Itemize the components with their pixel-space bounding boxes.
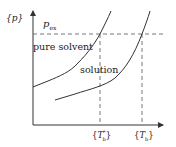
solution-label: solution: [80, 65, 118, 75]
y-axis-label: {p}: [6, 14, 23, 23]
tb-star-sub: b: [103, 136, 106, 142]
pressure-subscript: ex: [49, 24, 56, 31]
solution-text: solution: [80, 64, 118, 75]
pure-solvent-text: pure solvent: [33, 41, 93, 52]
solution-curve: [55, 11, 150, 100]
pure-solvent-label: pure solvent: [33, 42, 93, 52]
y-axis-label-text: {p}: [6, 13, 23, 23]
tb-star-tick-label: {T*b}: [92, 130, 111, 142]
tb-tick-label: {Tb}: [134, 131, 154, 142]
external-pressure-label: pex: [43, 19, 56, 31]
tb-sub: b: [145, 136, 148, 142]
tb-star-sup: *: [103, 129, 106, 135]
